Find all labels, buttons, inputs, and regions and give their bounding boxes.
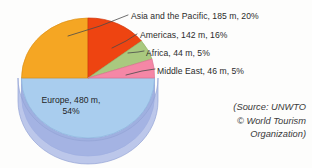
pie-label-middle-east: Middle East, 46 m, 5%: [157, 66, 244, 76]
pie-label-asia-pacific: Asia and the Pacific, 185 m, 20%: [131, 11, 259, 21]
pie-label-europe-line2: 54%: [19, 106, 123, 117]
pie-label-europe: Europe, 480 m, 54%: [19, 95, 123, 117]
source-line-1: (Source: UNWTO: [182, 101, 306, 115]
pie-slice-asia-pacific: [22, 18, 89, 78]
source-attribution: (Source: UNWTO © World Tourism Organizat…: [182, 101, 306, 142]
source-line-3: Organization): [182, 128, 306, 142]
pie-label-africa: Africa, 44 m, 5%: [146, 48, 210, 58]
pie-chart-graphic: [0, 0, 312, 168]
pie-label-americas: Americas, 142 m, 16%: [140, 30, 227, 40]
source-line-2: © World Tourism: [182, 115, 306, 129]
pie-chart-figure: Asia and the Pacific, 185 m, 20% America…: [0, 0, 312, 168]
pie-label-europe-line1: Europe, 480 m,: [19, 95, 123, 106]
